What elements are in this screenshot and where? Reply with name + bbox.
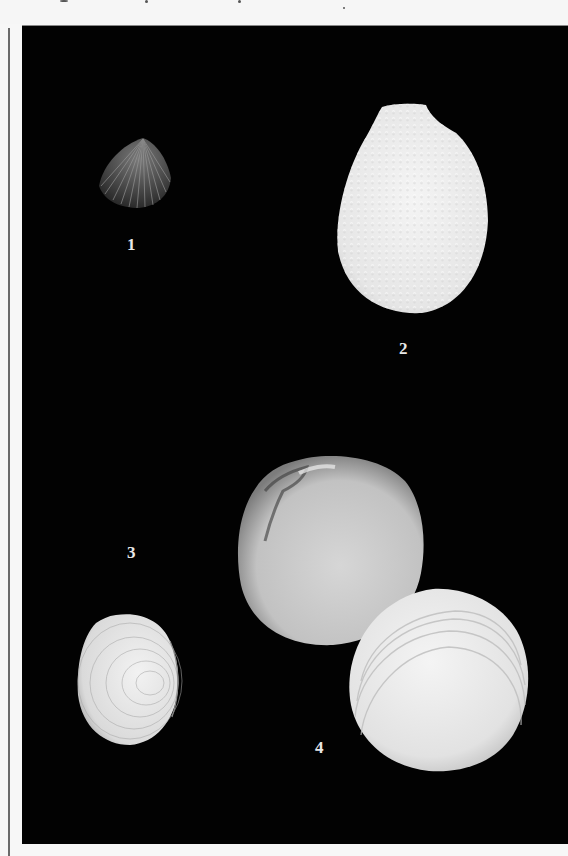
margin-rule	[8, 28, 10, 856]
shell-figure-2	[334, 101, 494, 316]
text-descender	[145, 0, 148, 3]
specimen-plate: 1 2 3	[22, 25, 568, 844]
figure-label-1: 1	[127, 235, 136, 255]
figure-label-3: 3	[127, 543, 136, 563]
figure-label-2: 2	[399, 339, 408, 359]
shell-figure-3	[76, 611, 182, 747]
shell-figure-4-exterior	[345, 585, 533, 773]
text-descender	[60, 0, 68, 2]
shell-figure-1	[95, 134, 175, 214]
page-top-margin	[0, 0, 568, 24]
figure-label-4: 4	[315, 738, 324, 758]
text-descender	[343, 7, 345, 9]
text-descender	[238, 0, 241, 3]
